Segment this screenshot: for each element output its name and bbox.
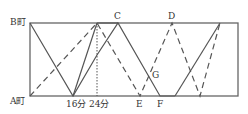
label-16-min: 16分	[66, 100, 86, 109]
label-point-e: E	[136, 100, 143, 109]
label-point-d: D	[168, 12, 175, 21]
label-point-g: G	[152, 71, 159, 80]
label-point-f: F	[157, 100, 163, 109]
label-town-b: B町	[10, 18, 26, 27]
solid-up-right	[175, 23, 220, 96]
label-point-c: C	[114, 12, 121, 21]
dashed-path	[30, 23, 220, 96]
graph-canvas	[0, 0, 248, 114]
label-24-min: 24分	[89, 100, 109, 109]
solid-up-to-24	[73, 23, 97, 96]
label-town-a: A町	[10, 97, 26, 106]
solid-path-1	[30, 23, 175, 96]
